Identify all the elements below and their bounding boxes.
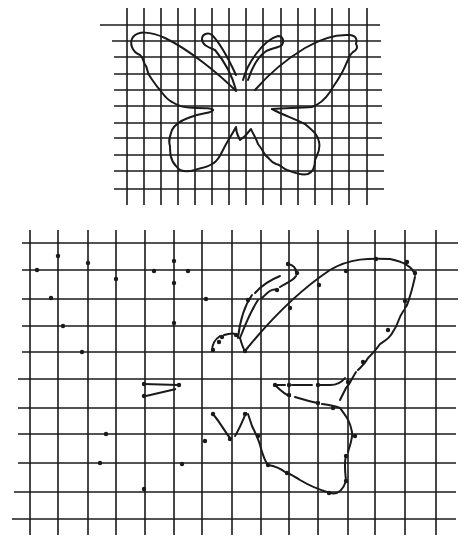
- small-butterfly-outline: [131, 33, 357, 175]
- left-wing-stub-strokes: [144, 384, 178, 396]
- small-grid: [100, 8, 384, 205]
- diagram-canvas: [0, 0, 476, 551]
- large-grid: [12, 230, 458, 535]
- reference-dots: [35, 254, 417, 495]
- large-butterfly-partial: [212, 259, 415, 494]
